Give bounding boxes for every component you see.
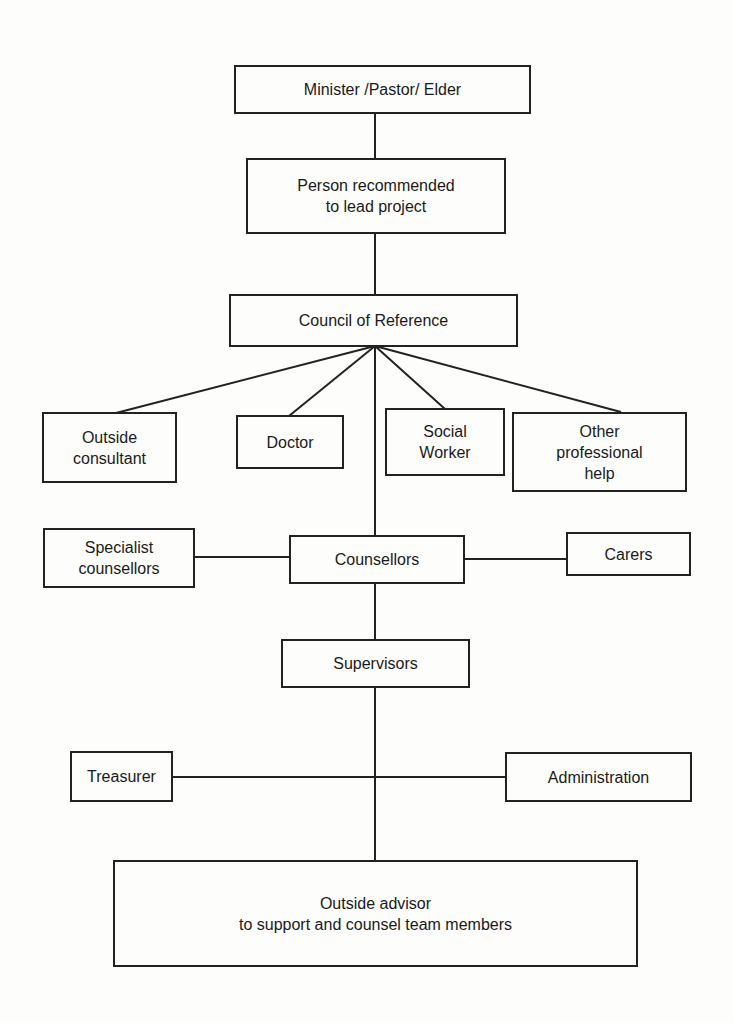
node-doctor: Doctor: [236, 415, 344, 469]
node-administration: Administration: [505, 752, 692, 802]
node-carers: Carers: [566, 532, 691, 576]
node-treasurer: Treasurer: [70, 751, 173, 802]
node-supervisors: Supervisors: [281, 639, 470, 688]
node-outside-consultant: Outside consultant: [42, 412, 177, 483]
node-social-worker: Social Worker: [385, 408, 505, 476]
node-other-professional-help: Other professional help: [512, 412, 687, 492]
node-counsellors: Counsellors: [289, 535, 465, 584]
node-lead-person: Person recommended to lead project: [246, 158, 506, 234]
node-council-of-reference: Council of Reference: [229, 294, 518, 347]
node-outside-advisor: Outside advisor to support and counsel t…: [113, 860, 638, 967]
node-minister: Minister /Pastor/ Elder: [234, 65, 531, 114]
node-specialist-counsellors: Specialist counsellors: [43, 528, 195, 588]
